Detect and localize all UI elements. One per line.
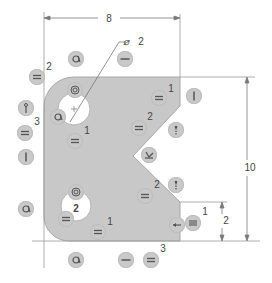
sketch-canvas[interactable] bbox=[0, 0, 272, 283]
equal-constraint-icon[interactable] bbox=[185, 215, 201, 231]
equal-constraint-icon[interactable] bbox=[90, 224, 106, 240]
perpendicular-constraint-icon[interactable] bbox=[141, 147, 157, 163]
label-bottom-hole-2: 2 bbox=[73, 204, 79, 214]
equal-constraint-icon[interactable] bbox=[137, 188, 153, 204]
height-dimension-value[interactable]: 10 bbox=[244, 163, 255, 173]
label-notch-upper-2: 2 bbox=[147, 112, 153, 122]
label-notch-lower-2: 2 bbox=[154, 180, 160, 190]
coincident-constraint-icon[interactable] bbox=[168, 122, 184, 138]
equal-constraint-icon[interactable] bbox=[29, 69, 45, 85]
tangent-constraint-icon[interactable] bbox=[50, 109, 66, 125]
label-top-left-2: 2 bbox=[46, 62, 52, 72]
equal-constraint-icon[interactable] bbox=[17, 125, 33, 141]
tangent-constraint-icon[interactable] bbox=[68, 51, 84, 67]
equal-constraint-icon[interactable] bbox=[58, 211, 74, 227]
horizontal-constraint-icon[interactable] bbox=[118, 252, 134, 268]
label-bottom-3: 3 bbox=[160, 244, 166, 254]
label-top-hole-1: 1 bbox=[84, 126, 90, 136]
diameter-value[interactable]: 2 bbox=[138, 37, 144, 47]
horizontal-constraint-icon[interactable] bbox=[117, 51, 133, 67]
equal-constraint-icon[interactable] bbox=[131, 120, 147, 136]
coincident-constraint-icon[interactable] bbox=[168, 177, 184, 193]
midpoint-constraint-icon[interactable] bbox=[169, 217, 185, 233]
label-right-1: 1 bbox=[202, 207, 208, 217]
equal-constraint-icon[interactable] bbox=[67, 133, 83, 149]
tangent-constraint-icon[interactable] bbox=[18, 201, 34, 217]
concentric-constraint-icon[interactable] bbox=[67, 82, 83, 98]
label-right-upper-1: 1 bbox=[168, 84, 174, 94]
diameter-symbol: ⌀ bbox=[123, 37, 129, 47]
concentric-constraint-icon[interactable] bbox=[68, 184, 84, 200]
vertical-constraint-icon[interactable] bbox=[186, 88, 202, 104]
vertical-constraint-icon[interactable] bbox=[18, 149, 34, 165]
equal-constraint-icon[interactable] bbox=[143, 252, 159, 268]
height-dimension[interactable] bbox=[245, 77, 249, 241]
coincident-constraint-icon[interactable] bbox=[18, 100, 34, 116]
label-left-3: 3 bbox=[34, 117, 40, 127]
equal-constraint-icon[interactable] bbox=[151, 90, 167, 106]
tangent-constraint-icon[interactable] bbox=[68, 252, 84, 268]
width-dimension-value[interactable]: 8 bbox=[106, 14, 112, 24]
offset-dimension-value[interactable]: 2 bbox=[223, 216, 229, 226]
label-bottom-1: 1 bbox=[107, 217, 113, 227]
